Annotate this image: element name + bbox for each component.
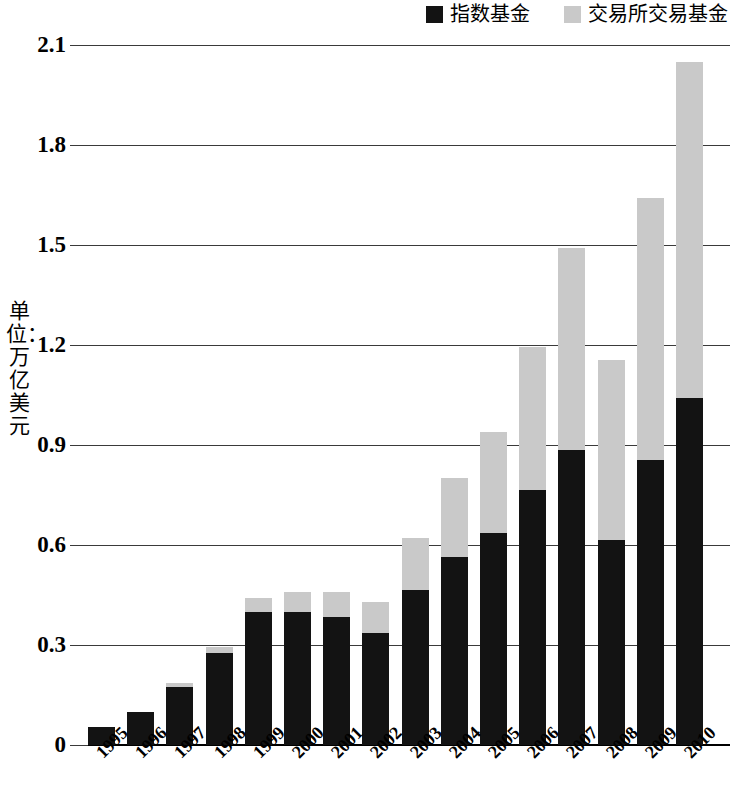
bar-segment-etf: [519, 347, 546, 490]
bar-segment-etf: [598, 360, 625, 540]
x-axis-labels: 1995199619971998199920002001200220032004…: [88, 748, 730, 797]
bar-group: [362, 602, 389, 745]
y-tick-label: 0.3: [37, 632, 66, 658]
bar-group: [637, 198, 664, 745]
legend-swatch-index-funds: [426, 6, 443, 23]
bar-group: [323, 592, 350, 745]
bar-segment-index-funds: [519, 490, 546, 745]
bar-segment-index-funds: [598, 540, 625, 745]
bar-group: [676, 62, 703, 745]
bar-group: [480, 432, 507, 745]
y-tick-mark: [70, 745, 88, 746]
bar-segment-etf: [637, 198, 664, 460]
legend-item-etf: 交易所交易基金: [564, 4, 728, 24]
y-tick-label: 1.5: [37, 232, 66, 258]
legend-label-index-funds: 指数基金: [450, 4, 530, 24]
y-tick-mark: [70, 445, 88, 446]
bar-group: [519, 347, 546, 745]
bar-segment-index-funds: [402, 590, 429, 745]
bar-group: [245, 598, 272, 745]
y-tick-label: 2.1: [37, 32, 66, 58]
y-tick-label: 0.9: [37, 432, 66, 458]
plot-area: 00.30.60.91.21.51.82.1: [88, 45, 730, 745]
y-tick-label: 1.8: [37, 132, 66, 158]
bar-group: [441, 478, 468, 745]
bar-segment-index-funds: [441, 557, 468, 745]
y-tick-mark: [70, 345, 88, 346]
bar-segment-etf: [166, 683, 193, 686]
y-axis-title: 单位：万亿美元: [6, 300, 32, 438]
bar-segment-index-funds: [284, 612, 311, 745]
bar-segment-index-funds: [323, 617, 350, 745]
bar-group: [284, 592, 311, 745]
bar-segment-etf: [245, 598, 272, 611]
legend-swatch-etf: [564, 6, 581, 23]
bar-segment-index-funds: [676, 398, 703, 745]
bar-segment-index-funds: [558, 450, 585, 745]
bar-segment-index-funds: [480, 533, 507, 745]
legend-label-etf: 交易所交易基金: [588, 4, 728, 24]
y-tick-mark: [70, 245, 88, 246]
y-tick-label: 0: [55, 732, 67, 758]
bar-group: [598, 360, 625, 745]
bar-segment-etf: [362, 602, 389, 634]
legend-item-index-funds: 指数基金: [426, 4, 530, 24]
chart-legend: 指数基金 交易所交易基金: [0, 0, 730, 28]
bar-group: [558, 248, 585, 745]
bar-segment-etf: [676, 62, 703, 399]
y-tick-label: 1.2: [37, 332, 66, 358]
chart-container: 指数基金 交易所交易基金 单位：万亿美元 00.30.60.91.21.51.8…: [0, 0, 730, 797]
y-tick-mark: [70, 645, 88, 646]
y-tick-mark: [70, 145, 88, 146]
bar-group: [402, 538, 429, 745]
y-tick-label: 0.6: [37, 532, 66, 558]
bar-segment-etf: [558, 248, 585, 450]
bar-segment-etf: [441, 478, 468, 556]
bars-layer: [88, 45, 730, 745]
bar-segment-index-funds: [637, 460, 664, 745]
y-tick-mark: [70, 45, 88, 46]
bar-segment-etf: [206, 647, 233, 654]
bar-segment-etf: [284, 592, 311, 612]
y-tick-mark: [70, 545, 88, 546]
bar-segment-etf: [480, 432, 507, 534]
bar-segment-etf: [402, 538, 429, 590]
bar-segment-index-funds: [245, 612, 272, 745]
bar-segment-etf: [323, 592, 350, 617]
